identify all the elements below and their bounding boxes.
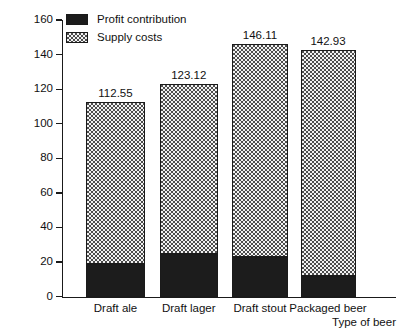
y-tick-label-20: 20 <box>13 256 53 268</box>
y-tick-label-160: 160 <box>13 14 53 26</box>
y-tick-40 <box>56 227 62 228</box>
legend-swatch-profit-contribution <box>66 14 88 25</box>
bar-segment-supply-costs <box>86 102 145 264</box>
legend-label-supply-costs: Supply costs <box>97 31 162 44</box>
y-tick-120 <box>56 89 62 90</box>
bar-value-label: 123.12 <box>148 69 231 81</box>
bar-value-label: 142.93 <box>289 35 368 47</box>
chart-legend: Profit contribution Supply costs <box>66 10 187 46</box>
bar-segment-supply-costs <box>160 84 219 254</box>
legend-swatch-supply-costs <box>66 32 88 43</box>
y-tick-20 <box>56 261 62 262</box>
legend-item-supply-costs: Supply costs <box>66 28 187 43</box>
y-tick-label-100: 100 <box>13 118 53 130</box>
y-tick-160 <box>56 19 62 20</box>
y-tick-label-140: 140 <box>13 49 53 61</box>
y-tick-label-120: 120 <box>13 83 53 95</box>
bar-segment-supply-costs <box>301 50 356 276</box>
y-axis-line <box>62 20 63 298</box>
legend-item-profit-contribution: Profit contribution <box>66 10 187 25</box>
bar-segment-profit-contribution <box>301 276 356 297</box>
bar-segment-profit-contribution <box>160 254 219 296</box>
x-category-label: Packaged beer <box>279 302 378 315</box>
y-tick-0 <box>56 296 62 297</box>
legend-label-profit-contribution: Profit contribution <box>97 13 187 26</box>
y-tick-label-80: 80 <box>13 152 53 164</box>
y-tick-140 <box>56 54 62 55</box>
y-tick-60 <box>56 192 62 193</box>
y-tick-label-60: 60 <box>13 187 53 199</box>
bar-segment-profit-contribution <box>86 264 145 297</box>
y-tick-label-0: 0 <box>13 291 53 303</box>
x-axis-title: Type of beer <box>332 316 396 329</box>
bar-value-label: 112.55 <box>74 87 157 99</box>
bar-segment-supply-costs <box>232 44 288 257</box>
stacked-bar-chart: Pounds per bbl 020406080100120140160 112… <box>0 0 398 334</box>
y-tick-80 <box>56 158 62 159</box>
y-tick-label-40: 40 <box>13 221 53 233</box>
bar-segment-profit-contribution <box>232 257 288 297</box>
y-tick-100 <box>56 123 62 124</box>
x-axis-line <box>62 297 396 298</box>
